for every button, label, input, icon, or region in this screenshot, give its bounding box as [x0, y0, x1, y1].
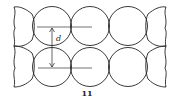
circle-r1-c2	[71, 7, 110, 46]
right-partial-arc-bottom	[146, 46, 166, 87]
circle-r2-c3	[109, 48, 148, 87]
circle-r2-c2	[71, 48, 110, 87]
figure-caption: 11	[0, 88, 174, 98]
left-partial-arc-bottom	[14, 46, 34, 87]
dimension-label: d	[56, 34, 61, 43]
left-partial-arc-top	[14, 7, 34, 47]
circle-r1-c3	[109, 7, 148, 46]
right-partial-arc-top	[146, 7, 166, 47]
